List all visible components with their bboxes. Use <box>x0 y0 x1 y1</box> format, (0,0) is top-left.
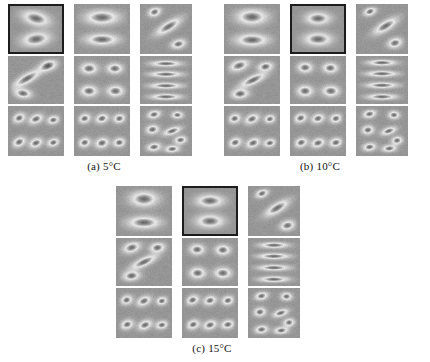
group-caption: (b)10°C <box>222 160 418 172</box>
panel-column <box>224 4 280 158</box>
pattern-panel <box>140 4 192 54</box>
caption-label: (a) <box>87 160 100 172</box>
caption-temperature: 15°C <box>208 342 232 354</box>
panel-column <box>140 4 192 158</box>
pattern-panel <box>74 56 130 104</box>
panel-column <box>182 186 238 340</box>
pattern-panel <box>182 288 238 338</box>
pattern-panel <box>116 288 172 338</box>
pattern-panel <box>224 106 280 156</box>
pattern-panel <box>182 238 238 286</box>
pattern-panel <box>356 106 408 156</box>
pattern-panel <box>140 56 192 104</box>
pattern-panel <box>248 238 300 286</box>
pattern-panel <box>8 56 64 104</box>
pattern-panel <box>356 56 408 104</box>
panel-column <box>8 4 64 158</box>
figure-root: (a)5°C(b)10°C(c)15°C <box>0 0 430 362</box>
pattern-panel <box>182 186 238 236</box>
panel-column <box>248 186 300 340</box>
panel-column <box>116 186 172 340</box>
pattern-panel <box>290 56 346 104</box>
pattern-panel <box>140 106 192 156</box>
panel-column <box>74 4 130 158</box>
pattern-panel <box>116 238 172 286</box>
panel-column <box>356 4 408 158</box>
pattern-panel <box>290 106 346 156</box>
pattern-panel <box>116 186 172 236</box>
caption-label: (b) <box>300 160 313 172</box>
group-caption: (a)5°C <box>6 160 202 172</box>
pattern-panel <box>8 4 64 54</box>
pattern-panel <box>74 106 130 156</box>
panel-column <box>290 4 346 158</box>
pattern-panel <box>356 4 408 54</box>
caption-temperature: 10°C <box>316 160 340 172</box>
pattern-panel <box>224 4 280 54</box>
pattern-panel <box>290 4 346 54</box>
group-caption: (c)15°C <box>114 342 310 354</box>
caption-temperature: 5°C <box>103 160 121 172</box>
pattern-panel <box>248 186 300 236</box>
caption-label: (c) <box>192 342 205 354</box>
pattern-panel <box>248 288 300 338</box>
pattern-panel <box>74 4 130 54</box>
pattern-panel <box>8 106 64 156</box>
pattern-panel <box>224 56 280 104</box>
